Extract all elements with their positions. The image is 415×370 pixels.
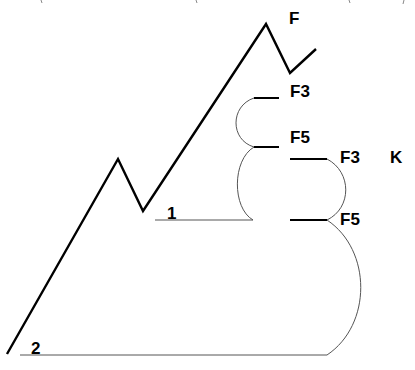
label-2: 2: [31, 339, 40, 358]
edge-artifact: [41, 0, 42, 3]
diagram-canvas: F F3 F5 F3 K F5 1 2: [0, 0, 415, 370]
main-strand: [7, 24, 316, 354]
label-right-f5: F5: [340, 210, 360, 229]
edge-artifact: [403, 0, 404, 4]
large-loop: [327, 220, 361, 355]
edge-artifact: [349, 0, 350, 3]
label-1: 1: [167, 204, 176, 223]
label-f: F: [289, 9, 299, 28]
label-upper-f5: F5: [290, 128, 310, 147]
upper-loop: [236, 98, 254, 147]
edge-artifact: [196, 0, 197, 3]
label-k: K: [390, 148, 403, 167]
label-right-f3: F3: [340, 148, 360, 167]
middle-loop: [237, 147, 254, 220]
label-upper-f3: F3: [290, 82, 310, 101]
